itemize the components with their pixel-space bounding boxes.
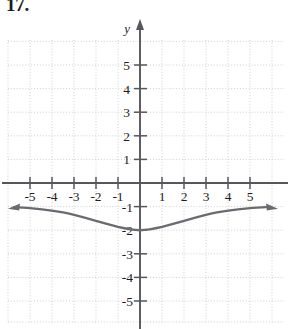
y-tick-label: -1: [122, 200, 133, 215]
y-axis-label: y: [122, 21, 130, 36]
y-tick-label: -2: [122, 223, 133, 238]
x-tick-label: 1: [159, 189, 166, 204]
y-tick-label: -3: [122, 247, 133, 262]
y-tick-label: 5: [123, 58, 130, 73]
x-tick-label: -2: [90, 189, 101, 204]
x-tick-label: -4: [46, 189, 57, 204]
y-axis-arrowhead-icon: [136, 19, 144, 30]
grid-lines: [8, 40, 284, 322]
y-tick-label: -5: [122, 294, 133, 309]
x-tick-label: 3: [203, 189, 210, 204]
y-tick-label: 3: [123, 105, 130, 120]
x-tick-label: 4: [225, 189, 232, 204]
curve-right-arrowhead-icon: [266, 204, 278, 211]
graph-svg: -5 -4 -3 -2 -1 1 2 3 4 5 5 4 3 2 1 -1 -2…: [0, 0, 292, 329]
y-tick-label: 4: [123, 82, 130, 97]
x-tick-label: 5: [247, 189, 254, 204]
exercise-figure: 17.: [0, 0, 292, 329]
curve-left-arrowhead-icon: [8, 204, 20, 211]
plotted-curve: [8, 204, 278, 231]
coordinate-plane-plot: -5 -4 -3 -2 -1 1 2 3 4 5 5 4 3 2 1 -1 -2…: [0, 0, 292, 329]
y-tick-label: -4: [122, 270, 133, 285]
x-axis-tick-labels: -5 -4 -3 -2 -1 1 2 3 4 5: [24, 189, 253, 204]
y-tick-label: 2: [123, 129, 130, 144]
x-tick-label: 2: [181, 189, 188, 204]
y-tick-label: 1: [123, 152, 130, 167]
x-tick-label: -5: [24, 189, 35, 204]
x-tick-label: -3: [68, 189, 79, 204]
